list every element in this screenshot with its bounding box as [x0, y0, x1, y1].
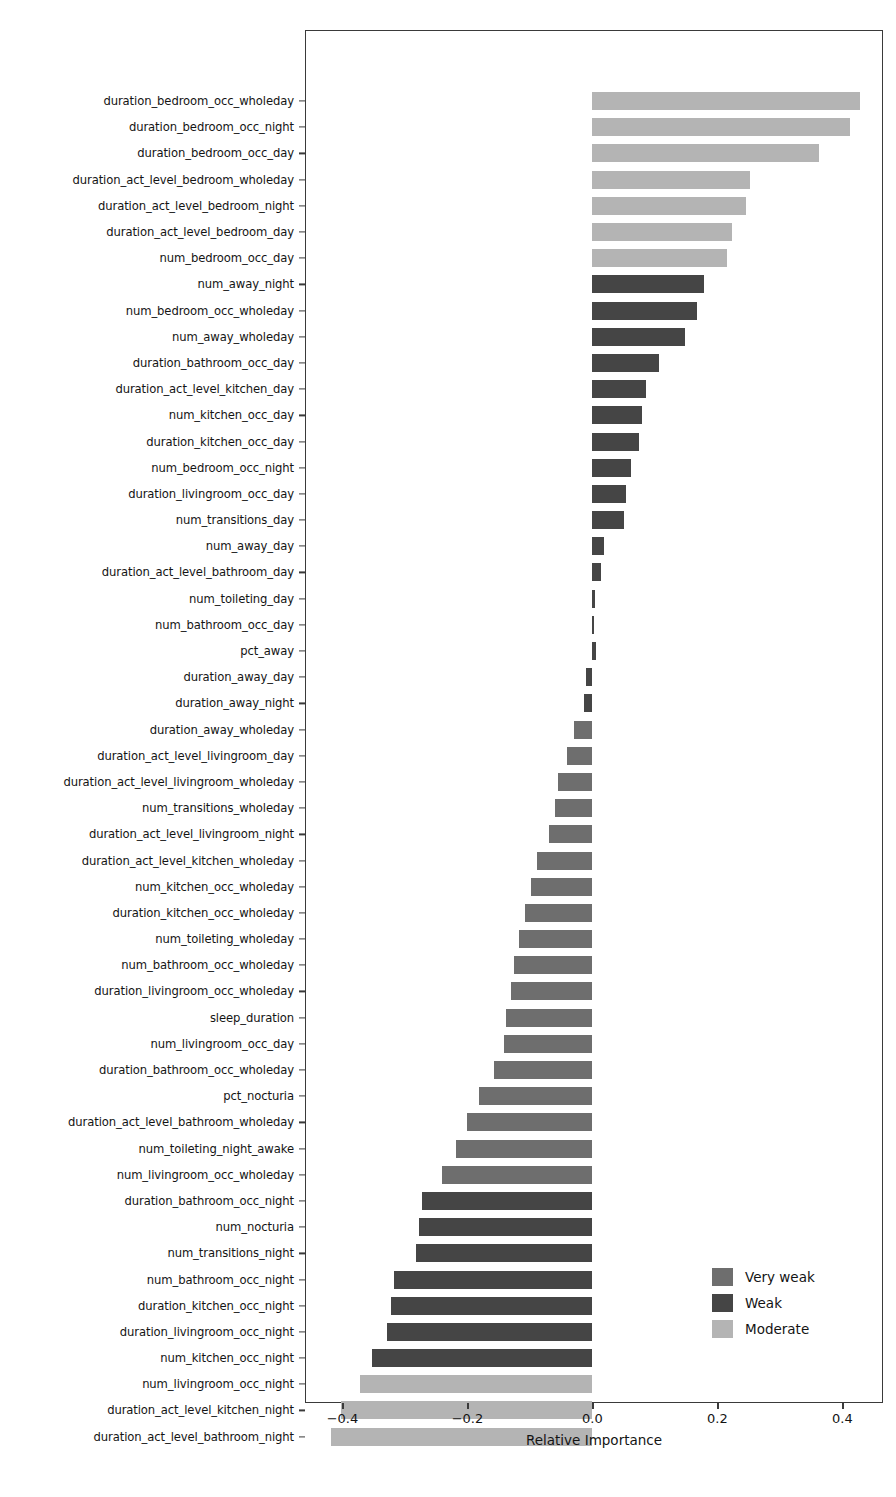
- bar-row-label: duration_livingroom_occ_night: [120, 1325, 294, 1338]
- bar-row-label: num_away_night: [197, 278, 294, 291]
- bar-track: [305, 586, 883, 612]
- bar-row-label: num_bedroom_occ_wholeday: [126, 304, 294, 317]
- bar: [467, 1113, 592, 1131]
- feature-importance-chart: duration_bedroom_occ_wholedayduration_be…: [0, 0, 896, 1497]
- bar-row: num_livingroom_occ_wholeday: [0, 1162, 896, 1188]
- bar-track: [305, 559, 883, 585]
- legend-swatch-icon: [712, 1320, 733, 1338]
- bar-row-label: duration_act_level_bathroom_day: [102, 566, 294, 579]
- bar-row: duration_act_level_bedroom_wholeday: [0, 167, 896, 193]
- bar: [592, 275, 703, 293]
- bar-row-label: duration_act_level_bedroom_wholeday: [72, 173, 294, 186]
- bar-row-label: num_kitchen_occ_day: [169, 409, 294, 422]
- bar-track: [305, 1031, 883, 1057]
- bar: [574, 721, 593, 739]
- bar-track: [305, 167, 883, 193]
- x-axis-tick: [342, 1403, 343, 1409]
- bar-row: duration_bedroom_occ_wholeday: [0, 88, 896, 114]
- bar: [504, 1035, 593, 1053]
- bar-track: [305, 821, 883, 847]
- bar-row: num_kitchen_occ_wholeday: [0, 874, 896, 900]
- bar-row-label: num_transitions_night: [167, 1247, 294, 1260]
- bar: [567, 747, 592, 765]
- bar-row-label: duration_bathroom_occ_wholeday: [99, 1064, 294, 1077]
- bar-row-label: num_bathroom_occ_day: [155, 618, 294, 631]
- bar: [494, 1061, 593, 1079]
- bar-track: [305, 1005, 883, 1031]
- bar-track: [305, 193, 883, 219]
- bar: [511, 982, 592, 1000]
- bar: [592, 433, 638, 451]
- bar-row: duration_act_level_bedroom_day: [0, 219, 896, 245]
- legend: Very weakWeakModerate: [712, 1264, 862, 1342]
- bar-row-label: pct_away: [240, 645, 294, 658]
- bar-row-label: num_away_wholeday: [172, 330, 294, 343]
- bar-track: [305, 952, 883, 978]
- bar: [555, 799, 592, 817]
- bar-track: [305, 533, 883, 559]
- bar-row-label: duration_act_level_bathroom_night: [94, 1430, 294, 1443]
- bar: [391, 1297, 592, 1315]
- bar: [586, 668, 592, 686]
- x-axis-tick-label: 0.0: [582, 1411, 603, 1426]
- bar: [360, 1375, 592, 1393]
- bar-row: pct_away: [0, 638, 896, 664]
- bar-track: [305, 690, 883, 716]
- bar-row-label: duration_act_level_bathroom_wholeday: [68, 1116, 294, 1129]
- bar-track: [305, 1136, 883, 1162]
- bar-row-label: duration_bedroom_occ_day: [137, 147, 294, 160]
- bar-row-label: num_bathroom_occ_night: [147, 1273, 294, 1286]
- bar-track: [305, 271, 883, 297]
- bar-track: [305, 350, 883, 376]
- bar-track: [305, 1162, 883, 1188]
- bar-row-label: sleep_duration: [210, 1011, 294, 1024]
- bar-track: [305, 874, 883, 900]
- bar-row-label: num_away_day: [206, 540, 294, 553]
- bar-track: [305, 1371, 883, 1397]
- bar-row: duration_away_wholeday: [0, 717, 896, 743]
- bar-row-label: duration_kitchen_occ_day: [146, 435, 294, 448]
- bar: [422, 1192, 592, 1210]
- bar-track: [305, 140, 883, 166]
- bar: [592, 406, 642, 424]
- bar: [592, 302, 696, 320]
- legend-label: Weak: [745, 1295, 782, 1311]
- bar: [592, 511, 623, 529]
- bar-row: num_bedroom_occ_day: [0, 245, 896, 271]
- bar-track: [305, 114, 883, 140]
- bar: [592, 563, 601, 581]
- bar-row: duration_act_level_bedroom_night: [0, 193, 896, 219]
- legend-label: Moderate: [745, 1321, 809, 1337]
- bar-row-label: num_bedroom_occ_night: [151, 461, 294, 474]
- bar-row: num_bedroom_occ_wholeday: [0, 298, 896, 324]
- bar-track: [305, 245, 883, 271]
- bar-row-label: duration_away_day: [183, 671, 294, 684]
- bar: [372, 1349, 592, 1367]
- bar-row: num_transitions_wholeday: [0, 795, 896, 821]
- bar: [456, 1140, 592, 1158]
- bar-track: [305, 324, 883, 350]
- bar-track: [305, 428, 883, 454]
- bar: [592, 92, 859, 110]
- bar-track: [305, 507, 883, 533]
- bar-row: duration_kitchen_occ_day: [0, 428, 896, 454]
- bar-row-label: num_transitions_wholeday: [142, 802, 294, 815]
- bar-row-label: duration_act_level_kitchen_night: [107, 1404, 294, 1417]
- bar: [592, 354, 658, 372]
- bar-row-label: num_kitchen_occ_night: [160, 1352, 294, 1365]
- bar: [592, 328, 684, 346]
- bar-row-label: duration_act_level_kitchen_day: [115, 383, 294, 396]
- bar-row: duration_bathroom_occ_wholeday: [0, 1057, 896, 1083]
- bar: [387, 1323, 592, 1341]
- bar: [592, 642, 596, 660]
- x-axis-tick: [467, 1403, 468, 1409]
- x-axis-tick-label: 0.4: [832, 1411, 853, 1426]
- bar-row-label: num_nocturia: [216, 1221, 294, 1234]
- bar-row: num_kitchen_occ_night: [0, 1345, 896, 1371]
- bar: [416, 1244, 592, 1262]
- bar: [592, 144, 818, 162]
- bar-row: num_livingroom_occ_day: [0, 1031, 896, 1057]
- bar: [592, 171, 749, 189]
- bar-row: num_bathroom_occ_day: [0, 612, 896, 638]
- bar-rows: duration_bedroom_occ_wholedayduration_be…: [0, 88, 896, 1450]
